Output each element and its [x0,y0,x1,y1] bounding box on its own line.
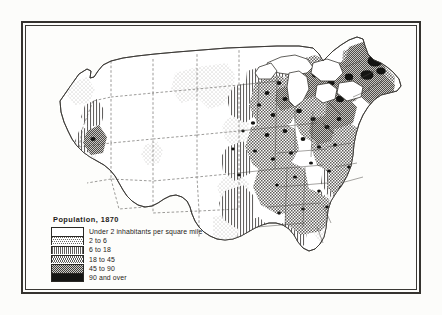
legend-label-90-and-over: 90 and over [89,274,127,281]
legend-label-under-2: Under 2 inhabitants per square mile [89,228,202,235]
legend-title: Population, 1870 [53,215,202,224]
map-plate: Population, 1870 Under 2 inhabitants per… [27,27,415,288]
map-page: Population, 1870 Under 2 inhabitants per… [0,0,442,315]
legend-swatch-2-to-6 [51,236,84,245]
legend-row: 6 to 18 [51,245,202,254]
map-legend: Population, 1870 Under 2 inhabitants per… [51,215,202,282]
map-frame: Population, 1870 Under 2 inhabitants per… [21,21,421,294]
legend-swatch-45-to-90 [51,264,84,273]
legend-label-6-to-18: 6 to 18 [89,246,111,253]
legend-label-45-to-90: 45 to 90 [89,265,115,272]
legend-row: 18 to 45 [51,255,202,264]
legend-swatch-6-to-18 [51,246,84,255]
legend-row: 2 to 6 [51,236,202,245]
legend-row: 45 to 90 [51,264,202,273]
legend-label-18-to-45: 18 to 45 [89,256,115,263]
legend-swatch-90-and-over [51,273,84,282]
legend-swatch-18-to-45 [51,255,84,264]
legend-swatch-under-2 [51,227,84,236]
legend-row: Under 2 inhabitants per square mile [51,227,202,236]
legend-row: 90 and over [51,273,202,282]
legend-label-2-to-6: 2 to 6 [89,237,107,244]
